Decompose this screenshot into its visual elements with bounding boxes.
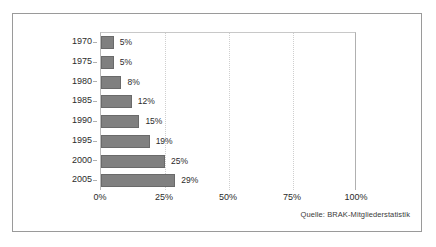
bar-row: 5%: [101, 33, 355, 53]
y-tick-label: 1975: [48, 52, 92, 72]
bar: [101, 36, 114, 49]
bar: [101, 76, 121, 89]
bar-value-label: 15%: [145, 114, 162, 128]
bar-value-label: 12%: [138, 94, 155, 108]
bar-value-label: 29%: [181, 173, 198, 187]
bar-row: 15%: [101, 112, 355, 132]
chart-figure-frame: 19701975198019851990199520002005 5%5%8%1…: [12, 13, 422, 232]
y-tick-mark: [93, 81, 97, 82]
bar: [101, 155, 165, 168]
bar-row: 12%: [101, 92, 355, 112]
x-tick-label: 100%: [344, 192, 367, 202]
y-tick-label: 1995: [48, 131, 92, 151]
x-tick-label: 50%: [219, 192, 237, 202]
x-tick-label: 25%: [155, 192, 173, 202]
bar-row: 29%: [101, 171, 355, 191]
bar-value-label: 19%: [156, 134, 173, 148]
y-tick-label: 2005: [48, 170, 92, 190]
bar: [101, 56, 114, 69]
y-tick-label: 2000: [48, 151, 92, 171]
y-axis-category-labels: 19701975198019851990199520002005: [53, 32, 97, 190]
y-tick-mark: [93, 62, 97, 63]
bar: [101, 115, 139, 128]
bar-row: 25%: [101, 152, 355, 172]
plot-area: 5%5%8%12%15%19%25%29%: [100, 32, 356, 190]
y-tick-mark: [93, 180, 97, 181]
bar-value-label: 5%: [120, 35, 132, 49]
y-tick-mark: [93, 121, 97, 122]
bar-series: 5%5%8%12%15%19%25%29%: [101, 33, 355, 190]
source-note: Quelle: BRAK-Mitgliederstatistik: [301, 210, 411, 219]
bar: [101, 174, 175, 187]
bar: [101, 95, 132, 108]
y-tick-mark: [93, 42, 97, 43]
bar-value-label: 8%: [127, 75, 139, 89]
y-tick-label: 1980: [48, 72, 92, 92]
y-tick-mark: [93, 160, 97, 161]
bar: [101, 135, 150, 148]
y-tick-label: 1970: [48, 32, 92, 52]
bar-row: 5%: [101, 53, 355, 73]
y-tick-label: 1985: [48, 91, 92, 111]
x-axis-tick-labels: 0%25%50%75%100%: [100, 192, 356, 206]
bar-value-label: 5%: [120, 55, 132, 69]
x-tick-label: 0%: [93, 192, 106, 202]
bar-value-label: 25%: [171, 154, 188, 168]
y-tick-label: 1990: [48, 111, 92, 131]
bar-row: 8%: [101, 73, 355, 93]
x-tick-label: 75%: [283, 192, 301, 202]
bar-row: 19%: [101, 132, 355, 152]
y-tick-mark: [93, 141, 97, 142]
y-tick-mark: [93, 101, 97, 102]
